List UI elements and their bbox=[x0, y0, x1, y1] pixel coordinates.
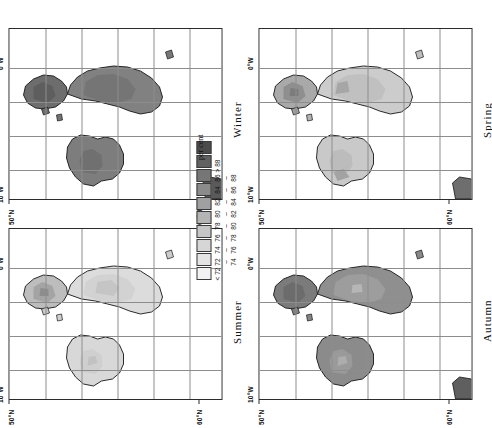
axis-label-longitude-east-spring: 0°W bbox=[246, 57, 253, 70]
axis-label-latitude-low-autumn: 50°N bbox=[257, 410, 264, 425]
axis-label-latitude-high-autumn: 60°N bbox=[445, 410, 452, 425]
map-plot-area-winter bbox=[8, 28, 222, 200]
gridline-horizontal bbox=[295, 229, 296, 399]
legend-swatch bbox=[196, 211, 211, 224]
gridline-horizontal bbox=[153, 229, 154, 399]
legend-swatch bbox=[196, 183, 211, 196]
axis-tick bbox=[8, 400, 9, 404]
gridline-horizontal bbox=[45, 229, 46, 399]
legend-swatch bbox=[196, 239, 211, 252]
legend: < 7272–7474–7676–7878–8080–8282–8484–868… bbox=[196, 140, 258, 280]
legend-swatch bbox=[196, 169, 211, 182]
axis-label-longitude-east-summer: 0°W bbox=[0, 257, 3, 270]
gridline-horizontal bbox=[45, 29, 46, 199]
axis-label-latitude-low-winter: 50°N bbox=[7, 210, 14, 225]
gridline-horizontal bbox=[189, 229, 190, 399]
legend-swatch-strip bbox=[196, 140, 211, 280]
map-panel-autumn: 50°N 60°N 10°W 0°W Autumn bbox=[258, 228, 472, 400]
gridline-horizontal bbox=[331, 29, 332, 199]
gridline-horizontal bbox=[403, 229, 404, 399]
axis-label-latitude-high-spring: 60°N bbox=[445, 210, 452, 225]
axis-label-latitude-high-summer: 60°N bbox=[195, 410, 202, 425]
map-plot-area-summer bbox=[8, 228, 222, 400]
axis-tick bbox=[8, 200, 9, 204]
axis-tick bbox=[198, 400, 199, 404]
axis-label-longitude-east-winter: 0°W bbox=[0, 57, 3, 70]
gridline-horizontal bbox=[403, 29, 404, 199]
legend-unit-label: per cent bbox=[195, 134, 204, 160]
legend-swatch bbox=[196, 253, 211, 266]
gridline-horizontal bbox=[153, 29, 154, 199]
axis-tick bbox=[448, 400, 449, 404]
gridline-horizontal bbox=[117, 29, 118, 199]
gridline-horizontal bbox=[331, 229, 332, 399]
axis-tick bbox=[258, 400, 259, 404]
panel-title-autumn: Autumn bbox=[480, 299, 492, 342]
gridline-horizontal bbox=[117, 229, 118, 399]
axis-label-longitude-west-winter: 10°W bbox=[0, 186, 3, 203]
axis-label-longitude-west-summer: 10°W bbox=[0, 386, 3, 403]
gridline-horizontal bbox=[189, 29, 190, 199]
panel-title-winter: Winter bbox=[230, 101, 242, 138]
map-panel-spring: 50°N 60°N 10°W 0°W Spring bbox=[258, 28, 472, 200]
map-panel-summer: 50°N 60°N 10°W 0°W Summer bbox=[8, 228, 222, 400]
axis-tick bbox=[448, 200, 449, 204]
legend-label: > 88 bbox=[213, 151, 221, 181]
axis-label-latitude-low-summer: 50°N bbox=[7, 410, 14, 425]
gridline-horizontal bbox=[295, 29, 296, 199]
map-plot-area-spring bbox=[258, 28, 472, 200]
map-plot-area-autumn bbox=[258, 228, 472, 400]
gridline-horizontal bbox=[367, 29, 368, 199]
map-panel-winter: 50°N 60°N 10°W 0°W Winter bbox=[8, 28, 222, 200]
axis-label-longitude-west-autumn: 10°W bbox=[246, 386, 253, 403]
legend-swatch bbox=[196, 225, 211, 238]
gridline-horizontal bbox=[81, 229, 82, 399]
gridline-horizontal bbox=[439, 229, 440, 399]
gridline-horizontal bbox=[439, 29, 440, 199]
panel-title-spring: Spring bbox=[480, 102, 492, 138]
gridline-horizontal bbox=[367, 229, 368, 399]
legend-swatch bbox=[196, 267, 211, 280]
legend-swatch bbox=[196, 197, 211, 210]
panel-title-summer: Summer bbox=[230, 300, 242, 344]
gridline-horizontal bbox=[81, 29, 82, 199]
